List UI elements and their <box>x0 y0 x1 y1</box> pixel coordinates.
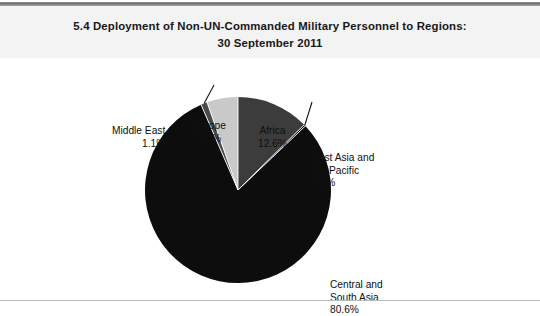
pie-label-central-and-south-asia: Central and South Asia 80.6% <box>330 279 383 316</box>
pie-label-africa-name: Africa <box>258 125 287 138</box>
pie-label-africa-value: 12.6% <box>258 138 287 151</box>
page-title-line-1: 5.4 Deployment of Non-UN-Commanded Milit… <box>0 18 540 35</box>
pie-label-central-south-asia-name-line-1: Central and <box>330 279 383 292</box>
pie-label-middle-east: Middle East 1.1% <box>112 125 165 150</box>
pie-label-east-asia-and-the-pacific: East Asia and the Pacific 0.3% <box>312 152 374 190</box>
pie-label-middle-east-name: Middle East <box>112 125 165 138</box>
pie-label-central-south-asia-name-line-2: South Asia <box>330 292 383 305</box>
bottom-divider-rule <box>0 300 540 301</box>
pie-label-europe: Europe 5.4% <box>193 120 226 145</box>
pie-label-middle-east-value: 1.1% <box>112 138 165 151</box>
figure-page: 5.4 Deployment of Non-UN-Commanded Milit… <box>0 0 540 316</box>
leader-line-east-asia <box>305 102 312 125</box>
pie-label-east-asia-name-line-2: the Pacific <box>312 165 374 178</box>
chart-plot-area: Middle East 1.1% Europe 5.4% Africa 12.6… <box>0 58 540 300</box>
page-title: 5.4 Deployment of Non-UN-Commanded Milit… <box>0 18 540 51</box>
page-title-line-2: 30 September 2011 <box>0 35 540 52</box>
title-band: 5.4 Deployment of Non-UN-Commanded Milit… <box>0 6 540 58</box>
pie-label-east-asia-value: 0.3% <box>312 177 374 190</box>
pie-label-europe-value: 5.4% <box>193 133 226 146</box>
pie-label-europe-name: Europe <box>193 120 226 133</box>
pie-label-central-south-asia-value: 80.6% <box>330 304 383 316</box>
pie-chart <box>0 58 540 300</box>
pie-label-africa: Africa 12.6% <box>258 125 287 150</box>
pie-label-east-asia-name-line-1: East Asia and <box>312 152 374 165</box>
